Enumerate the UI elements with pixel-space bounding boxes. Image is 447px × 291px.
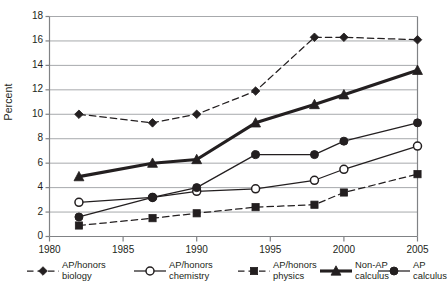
data-point [414, 171, 421, 178]
data-point [75, 110, 84, 119]
legend-label-line2: chemistry [169, 271, 213, 282]
y-axis-tick-label: 8 [17, 132, 43, 143]
legend-swatch [377, 264, 411, 278]
data-point [149, 193, 157, 201]
series-line [79, 37, 418, 123]
data-point [75, 213, 83, 221]
chart-legend: AP/honorsbiologyAP/honorschemistryAP/hon… [0, 258, 442, 291]
data-point [148, 119, 157, 128]
legend-marker [390, 267, 398, 275]
legend-label-line2: physics [273, 271, 317, 282]
data-point [414, 142, 422, 150]
x-axis-tick-label: 1995 [248, 244, 292, 255]
legend-label: APcalculus [413, 260, 447, 281]
data-point [414, 119, 422, 127]
x-axis-tick-label: 1985 [101, 244, 145, 255]
chart-series-ap-honors-biology [75, 33, 422, 127]
chart-series-ap-honors-physics [75, 171, 421, 230]
y-axis-tick-label: 14 [17, 59, 43, 70]
data-point [75, 198, 83, 206]
y-axis-tick-label: 18 [17, 10, 43, 21]
y-axis-tick-label: 0 [17, 230, 43, 241]
legend-label: AP/honorschemistry [169, 260, 213, 281]
data-point [193, 184, 201, 192]
legend-marker [39, 267, 48, 276]
legend-swatch [26, 264, 60, 278]
chart-series-ap-calculus [75, 119, 422, 221]
data-point [193, 210, 200, 217]
data-point [252, 204, 259, 211]
data-point [310, 151, 318, 159]
y-axis-tick-label: 4 [17, 181, 43, 192]
data-point [149, 215, 156, 222]
legend-label-line1: AP [413, 260, 447, 271]
legend-marker [146, 267, 154, 275]
data-point [252, 185, 260, 193]
data-point [413, 65, 423, 74]
x-axis-tick-label: 2000 [322, 244, 366, 255]
legend-label-line2: calculus [413, 271, 447, 282]
x-axis-tick-label: 2005 [396, 244, 440, 255]
legend-label-line2: biology [62, 271, 106, 282]
legend-label-line1: AP/honors [169, 260, 213, 271]
legend-label: AP/honorsphysics [273, 260, 317, 281]
data-point [251, 87, 260, 96]
data-point [192, 110, 201, 119]
series-line [79, 146, 418, 202]
legend-swatch [133, 264, 167, 278]
data-point [311, 201, 318, 208]
series-line [79, 70, 418, 176]
data-point [340, 165, 348, 173]
y-axis-tick-label: 16 [17, 34, 43, 45]
legend-swatch [319, 264, 353, 278]
data-point [340, 189, 347, 196]
legend-label: AP/honorsbiology [62, 260, 106, 281]
data-point [340, 33, 349, 42]
chart-series-ap-honors-chemistry [75, 142, 422, 206]
legend-label-line1: AP/honors [62, 260, 106, 271]
x-axis-tick-label: 1990 [175, 244, 219, 255]
data-point [413, 35, 422, 44]
legend-marker [250, 267, 257, 274]
x-axis-tick-label: 1980 [28, 244, 72, 255]
legend-label-line1: AP/honors [273, 260, 317, 271]
data-point [310, 176, 318, 184]
legend-swatch [237, 264, 271, 278]
data-point [340, 137, 348, 145]
gridlines [50, 17, 418, 213]
y-axis-tick-label: 6 [17, 157, 43, 168]
data-point [75, 222, 82, 229]
axis-lines [46, 17, 418, 242]
y-axis-tick-label: 2 [17, 206, 43, 217]
y-axis-tick-label: 12 [17, 83, 43, 94]
y-axis-tick-label: 10 [17, 108, 43, 119]
series-line [79, 174, 418, 225]
series-line [79, 123, 418, 217]
data-point [252, 151, 260, 159]
